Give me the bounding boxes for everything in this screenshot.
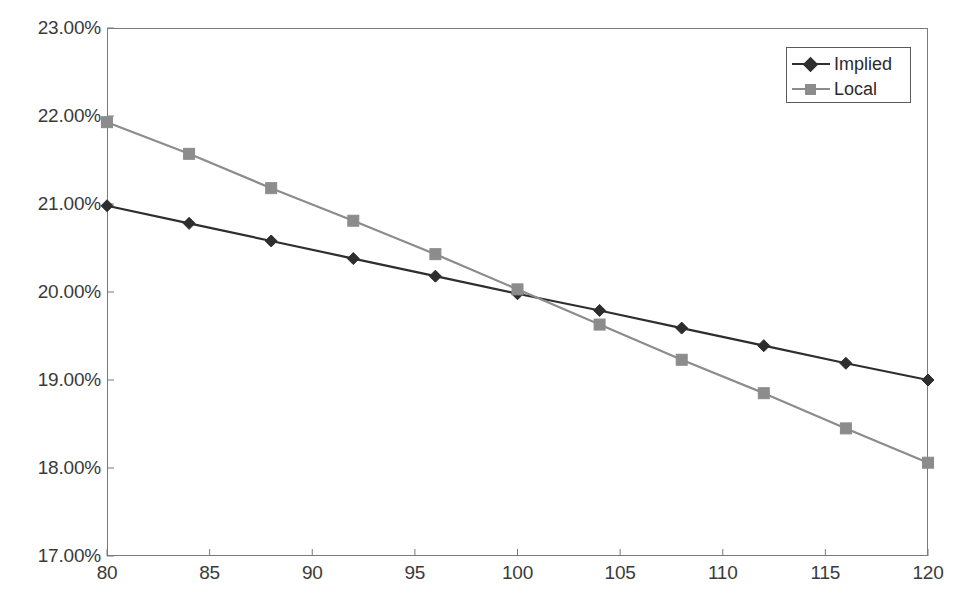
x-tick-label: 120	[898, 563, 958, 582]
x-tick-label: 105	[590, 563, 650, 582]
x-tick-label: 95	[385, 563, 445, 582]
volatility-line-chart: 17.00%18.00%19.00%20.00%21.00%22.00%23.0…	[0, 0, 963, 616]
square-marker-icon	[805, 84, 816, 95]
legend-swatch-implied	[792, 55, 830, 73]
x-tick-label: 80	[77, 563, 137, 582]
legend-item-local: Local	[792, 76, 905, 101]
legend-label-implied: Implied	[830, 55, 892, 73]
x-tick-label: 115	[795, 563, 855, 582]
x-tick-label: 100	[488, 563, 548, 582]
diamond-marker-icon	[803, 56, 819, 72]
legend-swatch-local	[792, 80, 830, 98]
legend-label-local: Local	[830, 80, 877, 98]
legend: Implied Local	[786, 47, 911, 103]
x-tick-label: 90	[282, 563, 342, 582]
x-tick-label: 110	[693, 563, 753, 582]
x-tick-label: 85	[180, 563, 240, 582]
legend-item-implied: Implied	[792, 51, 905, 76]
